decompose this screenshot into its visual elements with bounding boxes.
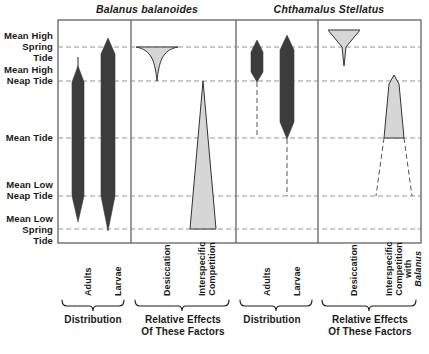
group-label-line-2: Of These Factors xyxy=(318,326,422,338)
tide-label-line-1: Mean Low xyxy=(0,213,53,224)
tide-label-line-1: Mean Tide xyxy=(0,132,53,143)
column-label-chthamalus-larvae: Larvae xyxy=(292,266,302,296)
group-label-line-2: Of These Factors xyxy=(131,326,235,338)
column-label-balanus-desiccation: Desiccation xyxy=(162,244,172,296)
group-label-effects-chthamalus: Relative Effects Of These Factors xyxy=(318,314,422,337)
column-label-balanus-adults: Adults xyxy=(83,267,93,296)
balanus-larvae-abundance xyxy=(101,38,115,231)
group-braces xyxy=(62,300,416,311)
brace-effects-chthamalus xyxy=(322,300,416,311)
tide-label-mean-tide: Mean Tide xyxy=(0,132,53,143)
tide-label-mean-high-spring-tide: Mean High Spring Tide xyxy=(0,30,53,63)
tide-label-mean-low-spring-tide: Mean Low Spring Tide xyxy=(0,213,53,246)
chthamalus-larvae-abundance xyxy=(280,35,294,139)
barnacle-zonation-figure: Balanus balanoides Chthamalus Stellatus … xyxy=(0,0,429,354)
tide-label-line-2: Spring Tide xyxy=(0,41,53,63)
group-label-line-1: Distribution xyxy=(48,314,138,326)
tide-label-line-2: Neap Tide xyxy=(0,190,53,201)
brace-distribution-balanus xyxy=(62,300,124,311)
group-label-line-1: Distribution xyxy=(227,314,317,326)
column-label-chthamalus-adults: Adults xyxy=(262,267,272,296)
column-label-balanus-larvae: Larvae xyxy=(113,266,123,296)
figure-canvas xyxy=(0,0,429,354)
species-title-chthamalus: Chthamalus Stellatus xyxy=(259,3,399,15)
column-label-line-2: Competition xyxy=(208,242,218,296)
column-label-line-4: Balanus xyxy=(413,251,423,287)
group-label-distribution-chthamalus: Distribution xyxy=(227,314,317,326)
group-label-line-1: Relative Effects xyxy=(131,314,235,326)
tide-label-line-2: Neap Tide xyxy=(0,75,53,86)
brace-distribution-chthamalus xyxy=(240,300,312,311)
group-label-effects-balanus: Relative Effects Of These Factors xyxy=(131,314,235,337)
tide-label-line-1: Mean High xyxy=(0,64,53,75)
tide-label-line-1: Mean High xyxy=(0,30,53,41)
group-label-distribution-balanus: Distribution xyxy=(48,314,138,326)
column-label-chthamalus-desiccation: Desiccation xyxy=(349,244,359,296)
column-label-balanus-competition: Interspecific Competition xyxy=(198,242,217,296)
brace-effects-balanus xyxy=(135,300,229,311)
tide-label-mean-high-neap-tide: Mean High Neap Tide xyxy=(0,64,53,86)
column-label-chthamalus-competition: Interspecific Competition with Balanus xyxy=(385,242,423,296)
group-label-line-1: Relative Effects xyxy=(318,314,422,326)
balanus-adults-abundance xyxy=(72,66,84,222)
species-title-balanus: Balanus balanoides xyxy=(77,3,217,15)
tide-label-line-2: Spring Tide xyxy=(0,224,53,246)
tide-label-line-1: Mean Low xyxy=(0,179,53,190)
tide-label-mean-low-neap-tide: Mean Low Neap Tide xyxy=(0,179,53,201)
